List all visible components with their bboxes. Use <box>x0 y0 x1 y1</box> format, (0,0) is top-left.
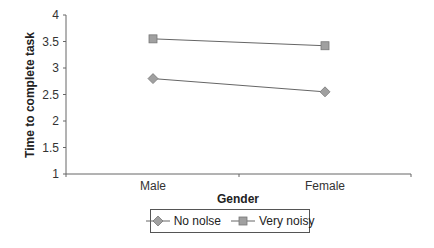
y-tick-label: 3 <box>52 61 59 75</box>
y-axis-title: Time to complete task <box>23 32 37 158</box>
x-tick-label: Male <box>140 179 166 193</box>
diamond-marker-icon <box>146 215 170 227</box>
x-axis: MaleFemale <box>66 174 411 193</box>
x-axis-title: Gender <box>217 192 259 206</box>
legend-label: No nolse <box>174 214 221 228</box>
square-marker-icon <box>149 35 157 43</box>
y-tick-label: 2 <box>52 114 59 128</box>
square-marker-icon <box>231 215 255 227</box>
diamond-marker-icon <box>148 74 158 84</box>
y-tick-label: 3.5 <box>42 35 59 49</box>
y-tick-label: 4 <box>52 8 59 22</box>
y-tick-label: 1.5 <box>42 141 59 155</box>
y-tick-label: 2.5 <box>42 88 59 102</box>
series-layer <box>148 35 330 97</box>
legend-item-no-noise: No nolse <box>146 214 221 228</box>
legend-label: Very noisy <box>259 214 314 228</box>
legend: No nolse Very noisy <box>150 209 310 233</box>
diamond-marker-icon <box>320 87 330 97</box>
square-marker-icon <box>321 42 329 50</box>
legend-item-very-noisy: Very noisy <box>231 214 314 228</box>
x-tick-label: Female <box>305 179 345 193</box>
y-tick-label: 1 <box>52 167 59 181</box>
y-axis: 11.522.533.54 <box>42 8 66 181</box>
